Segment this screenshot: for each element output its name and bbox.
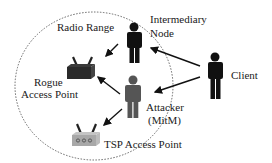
edge-attacker-rogue: [98, 77, 120, 94]
edge-client-attacker: [155, 77, 200, 92]
intermediary-person-icon: [127, 23, 142, 64]
intermediary-node-label-line2: Node: [150, 27, 174, 39]
network-diagram: Radio Range Intermediary Node Client Att…: [0, 0, 272, 163]
client-person-icon: [208, 53, 223, 100]
attacker-label-line2: (MitM): [148, 114, 181, 126]
edge-client-intermediary: [151, 48, 200, 66]
tsp-ap-label: TSP Access Point: [104, 138, 182, 150]
intermediary-node-label-line1: Intermediary: [150, 13, 207, 25]
attacker-person-icon: [125, 76, 141, 119]
edge-intermediary-rogue: [106, 44, 118, 56]
rogue-ap-label-line1: Rogue: [34, 76, 63, 88]
attacker-label-line1: Attacker: [146, 101, 184, 113]
client-label: Client: [231, 69, 258, 81]
edge-attacker-tsp: [104, 109, 122, 125]
rogue-access-point-icon: [67, 57, 95, 79]
radio-range-label: Radio Range: [57, 21, 114, 33]
rogue-ap-label-line2: Access Point: [21, 88, 78, 100]
tsp-access-point-icon: [72, 124, 100, 146]
